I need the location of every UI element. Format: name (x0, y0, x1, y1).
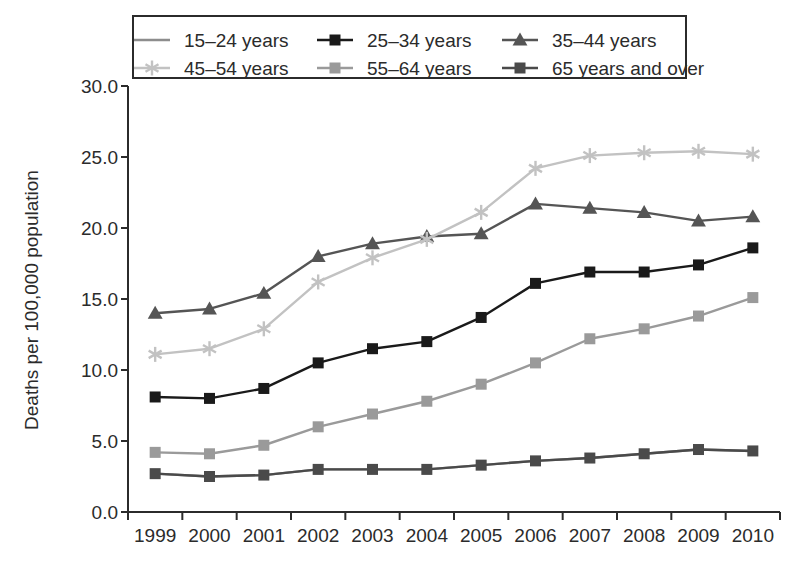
data-point-square (693, 444, 704, 455)
x-tick-label: 2006 (514, 525, 556, 546)
data-point-square (639, 448, 650, 459)
x-tick-label: 2000 (188, 525, 230, 546)
data-point-square (693, 259, 704, 270)
series-layer (148, 144, 761, 482)
data-point-square (530, 455, 541, 466)
chart-canvas: Deaths per 100,000 population 0.05.010.0… (0, 0, 798, 565)
data-point-square (476, 460, 487, 471)
series-3 (148, 196, 761, 318)
series-line (155, 450, 753, 477)
x-tick-label: 2001 (243, 525, 285, 546)
legend-label: 45–54 years (184, 58, 289, 79)
data-point-square (258, 440, 269, 451)
data-point-square (747, 242, 758, 253)
data-point-triangle (528, 196, 543, 209)
data-point-square (258, 470, 269, 481)
data-point-square (367, 464, 378, 475)
line-chart: Deaths per 100,000 population 0.05.010.0… (0, 0, 798, 565)
x-tick-label: 1999 (134, 525, 176, 546)
x-tick-label: 2002 (297, 525, 339, 546)
data-point-square (584, 267, 595, 278)
data-point-square (584, 453, 595, 464)
data-point-square (313, 357, 324, 368)
legend-label: 35–44 years (552, 30, 657, 51)
data-point-square (258, 383, 269, 394)
x-tick-label: 2008 (623, 525, 665, 546)
data-point-square (639, 267, 650, 278)
y-tick-label: 0.0 (92, 502, 118, 523)
data-point-square (530, 278, 541, 289)
data-point-square (530, 357, 541, 368)
y-tick-label: 15.0 (81, 289, 118, 310)
legend-label: 25–34 years (367, 30, 472, 51)
x-tick-label: 2009 (677, 525, 719, 546)
data-point-square (330, 35, 341, 46)
legend-label: 65 years and over (552, 58, 705, 79)
series-line (155, 298, 753, 454)
data-point-square (150, 468, 161, 479)
data-point-square (693, 311, 704, 322)
data-point-asterisk (475, 205, 488, 220)
data-point-square (313, 464, 324, 475)
data-point-triangle (256, 286, 271, 299)
data-point-square (330, 63, 341, 74)
data-point-square (367, 409, 378, 420)
y-axis-tick-labels: 0.05.010.015.020.025.030.0 (81, 76, 118, 523)
y-tick-label: 25.0 (81, 147, 118, 168)
data-point-asterisk (366, 250, 379, 265)
x-tick-label: 2007 (569, 525, 611, 546)
series-line (155, 204, 753, 313)
data-point-square (747, 445, 758, 456)
data-point-triangle (745, 209, 760, 222)
data-point-square (476, 312, 487, 323)
series-5 (150, 292, 759, 459)
data-point-square (313, 421, 324, 432)
data-point-square (515, 63, 526, 74)
y-axis-title: Deaths per 100,000 population (21, 170, 42, 430)
data-point-triangle (474, 226, 489, 239)
x-tick-label: 2004 (406, 525, 449, 546)
y-axis-ticks (121, 86, 128, 512)
data-point-square (150, 391, 161, 402)
y-tick-label: 10.0 (81, 360, 118, 381)
data-point-square (476, 379, 487, 390)
data-point-square (421, 396, 432, 407)
data-point-square (150, 447, 161, 458)
data-point-square (421, 464, 432, 475)
series-line (155, 450, 753, 477)
y-tick-label: 20.0 (81, 218, 118, 239)
x-axis-tick-labels: 1999200020012002200320042005200620072008… (134, 525, 774, 546)
data-point-square (584, 333, 595, 344)
data-point-square (421, 336, 432, 347)
x-tick-label: 2005 (460, 525, 502, 546)
legend-label: 15–24 years (184, 30, 289, 51)
x-axis-ticks (128, 512, 780, 520)
y-tick-label: 30.0 (81, 76, 118, 97)
data-point-square (204, 471, 215, 482)
y-tick-label: 5.0 (92, 431, 118, 452)
data-point-square (204, 393, 215, 404)
x-tick-label: 2003 (351, 525, 393, 546)
series-1 (155, 450, 753, 477)
legend-label: 55–64 years (367, 58, 472, 79)
data-point-square (747, 292, 758, 303)
data-point-square (367, 343, 378, 354)
x-tick-label: 2010 (732, 525, 774, 546)
data-point-square (639, 323, 650, 334)
data-point-square (204, 448, 215, 459)
